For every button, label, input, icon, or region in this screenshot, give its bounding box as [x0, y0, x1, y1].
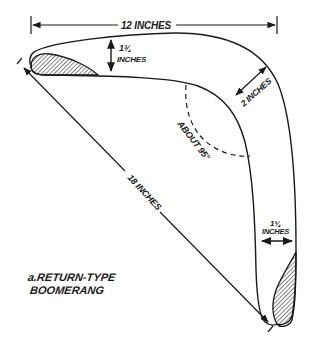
label-about-95: ABOUT 95° — [175, 118, 212, 162]
label-18-inches: 18 INCHES — [126, 173, 164, 213]
airfoil-section-top — [31, 54, 98, 75]
dimension-arm-width-bottom: 1¾ INCHES — [262, 219, 292, 241]
label-inches-bottom: INCHES — [262, 227, 289, 236]
label-fraction-top: 1¾ — [119, 43, 131, 53]
figure-caption: a.RETURN-TYPE BOOMERANG — [25, 271, 116, 297]
dimension-elbow-width: 2 INCHES — [236, 67, 274, 109]
label-2-inches: 2 INCHES — [238, 76, 274, 110]
dimension-12-inches: 12 INCHES — [31, 16, 277, 34]
airfoil-section-bottom — [273, 252, 296, 325]
caption-line-2: BOOMERANG — [25, 284, 114, 297]
label-12-inches: 12 INCHES — [121, 20, 171, 31]
label-inches-top: INCHES — [117, 55, 147, 64]
dimension-arm-width-top: 1¾ INCHES — [111, 40, 147, 71]
caption-line-1: a.RETURN-TYPE — [27, 271, 116, 284]
boomerang-diagram: 12 INCHES 1¾ INCHES 2 INCHES ABOUT 95° 1… — [0, 0, 315, 350]
